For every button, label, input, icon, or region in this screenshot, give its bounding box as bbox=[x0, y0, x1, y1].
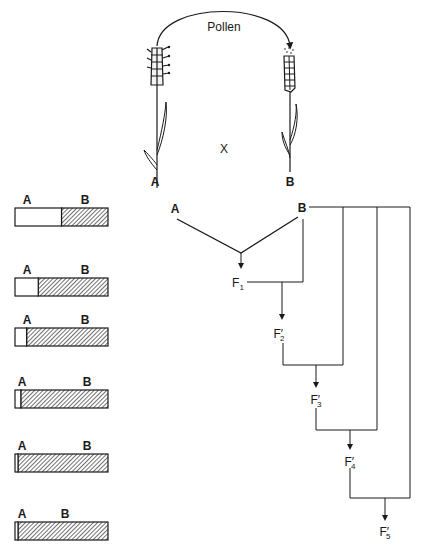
bar-label-b: B bbox=[83, 375, 92, 389]
f2-backcross-line bbox=[283, 343, 343, 365]
parent-a-segment bbox=[15, 390, 21, 408]
bar-label-a: A bbox=[18, 439, 27, 453]
pollen-transfer: Pollen bbox=[157, 12, 290, 47]
bar-label-a: A bbox=[23, 263, 32, 277]
pollen-label: Pollen bbox=[207, 20, 240, 34]
bar-label-a: A bbox=[23, 193, 32, 207]
f4-backcross-line bbox=[350, 468, 410, 498]
wheat-plant-a-icon bbox=[144, 46, 170, 188]
parent-a-segment bbox=[15, 278, 38, 296]
bar-label-a: A bbox=[18, 375, 27, 389]
genome-bar: AB bbox=[15, 263, 108, 296]
f3-backcross-line bbox=[316, 408, 377, 430]
genome-proportion-bars: ABABABABABAB bbox=[15, 193, 108, 540]
backcross-diagram: Pollen A B X ABABABABABAB A B bbox=[0, 0, 421, 552]
generation-label-f4: F′4 bbox=[344, 455, 356, 471]
bar-label-b: B bbox=[83, 439, 92, 453]
plant-b-label: B bbox=[286, 175, 295, 189]
parent-b-segment bbox=[18, 454, 108, 472]
pedigree-chart: A B F1F′2F′3F′4F′5 bbox=[171, 201, 410, 541]
parent-a-segment bbox=[15, 328, 27, 346]
pedigree-parent-b-label: B bbox=[298, 201, 307, 215]
generation-label-f5: F′5 bbox=[379, 525, 391, 541]
wheat-plant-b-icon bbox=[282, 47, 297, 172]
parent-b-segment bbox=[38, 278, 108, 296]
genome-bar: AB bbox=[15, 313, 108, 346]
parent-b-segment bbox=[21, 390, 108, 408]
bar-label-a: A bbox=[18, 507, 27, 521]
bar-label-a: A bbox=[23, 313, 32, 327]
bar-label-b: B bbox=[61, 507, 70, 521]
bar-label-b: B bbox=[81, 263, 90, 277]
bar-label-b: B bbox=[81, 313, 90, 327]
parent-b-segment bbox=[18, 522, 108, 540]
parent-b-segment bbox=[27, 328, 108, 346]
genome-bar: AB bbox=[15, 375, 108, 408]
generation-label-f2: F′2 bbox=[273, 327, 285, 343]
genome-bar: AB bbox=[15, 439, 108, 472]
bar-label-b: B bbox=[81, 193, 90, 207]
cross-symbol: X bbox=[220, 142, 228, 156]
parent-a-segment bbox=[15, 208, 62, 226]
parent-a-segment bbox=[15, 454, 18, 472]
plant-a-label: A bbox=[151, 175, 160, 189]
parent-b-segment bbox=[62, 208, 109, 226]
parent-a-segment bbox=[15, 522, 18, 540]
genome-bar: AB bbox=[15, 507, 108, 540]
generation-label-f1: F1 bbox=[232, 276, 244, 292]
generation-label-f3: F′3 bbox=[310, 393, 322, 409]
genome-bar: AB bbox=[15, 193, 108, 226]
pedigree-parent-a-label: A bbox=[171, 202, 180, 216]
cross-lines-a-b bbox=[177, 217, 298, 253]
